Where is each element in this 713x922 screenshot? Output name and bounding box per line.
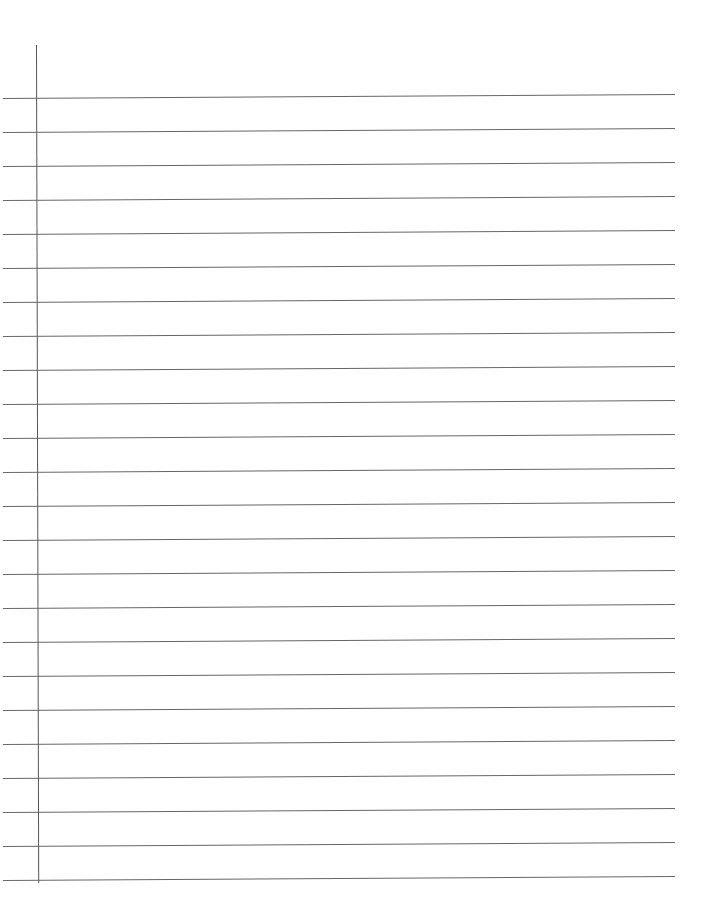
ruled-line (3, 128, 675, 133)
ruled-line (3, 502, 675, 507)
ruled-line (3, 536, 675, 541)
ruled-line (3, 570, 675, 575)
ruled-line (3, 774, 675, 779)
ruled-line (3, 808, 675, 813)
ruled-line (3, 94, 675, 99)
ruled-line (3, 876, 675, 881)
ruled-line (3, 434, 675, 439)
ruled-line (3, 604, 675, 609)
margin-line (36, 45, 39, 883)
ruled-line (3, 366, 675, 371)
ruled-line (3, 638, 675, 643)
lined-paper-page (0, 0, 713, 922)
ruled-line (3, 298, 675, 303)
ruled-line (3, 162, 675, 167)
ruled-line (3, 400, 675, 405)
ruled-line (3, 740, 675, 745)
ruled-line (3, 196, 675, 201)
ruled-line (3, 706, 675, 711)
ruled-line (3, 672, 675, 677)
ruled-line (3, 332, 675, 337)
ruled-line (3, 264, 675, 269)
ruled-line (3, 468, 675, 473)
ruled-line (3, 230, 675, 235)
ruled-line (3, 842, 675, 847)
